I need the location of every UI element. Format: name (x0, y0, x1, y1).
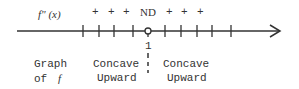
open-circle-icon (145, 28, 151, 34)
left-region-line1: Concave (93, 58, 139, 70)
critical-value: 1 (145, 40, 152, 52)
right-region-line2: Upward (167, 72, 207, 84)
row-label-of: of (34, 73, 47, 85)
left-region-line2: Upward (97, 72, 137, 84)
row-label-graph: Graph (34, 58, 67, 70)
right-region-line1: Concave (163, 58, 209, 70)
row-label-var: f (58, 72, 61, 84)
